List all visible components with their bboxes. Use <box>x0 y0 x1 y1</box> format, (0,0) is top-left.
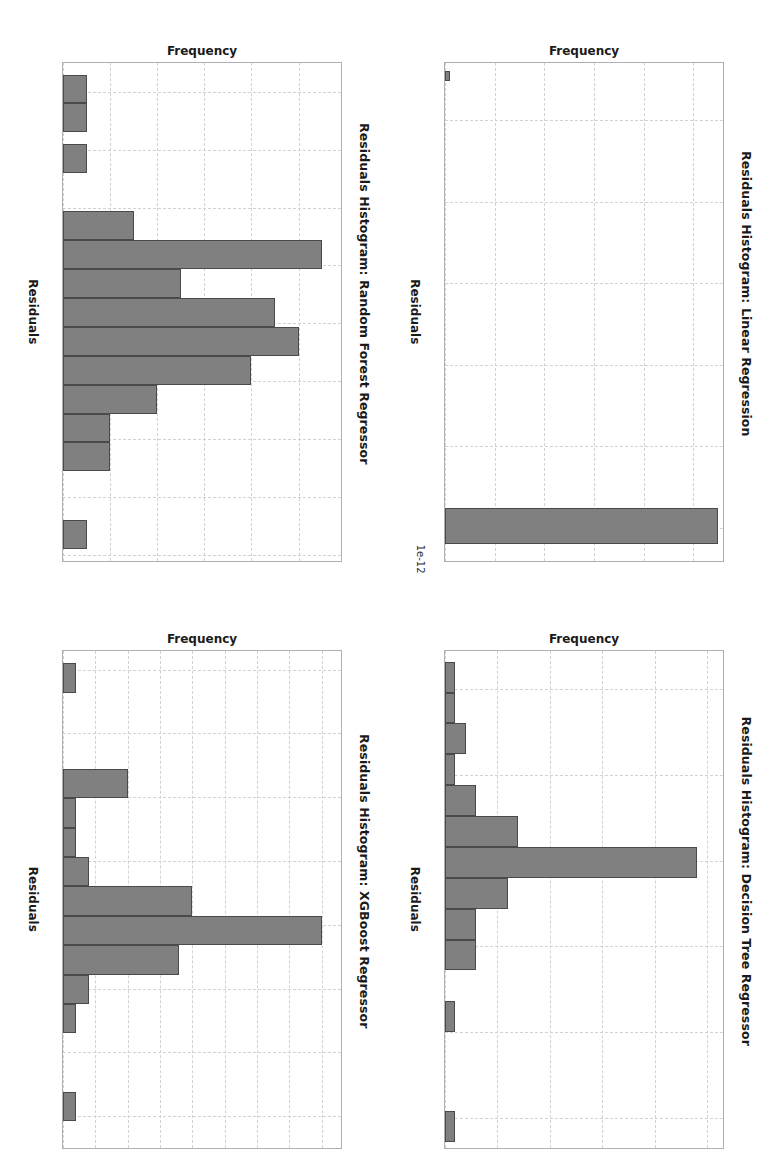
gridline-horizontal <box>322 651 323 1149</box>
histogram-bar <box>445 71 450 81</box>
y-tick-label: 6 <box>210 62 222 63</box>
y-tick-mark <box>289 650 290 651</box>
gridline-vertical <box>63 555 341 556</box>
y-tick-mark <box>110 62 111 63</box>
y-axis-label-xgboost-regressor: Frequency <box>167 632 237 646</box>
histogram-bar <box>63 442 110 471</box>
axes-random-forest-regressor: 0246810-0.20-0.15-0.10-0.050.000.050.100… <box>62 62 342 562</box>
panel-decision-tree-regressor: Residuals Histogram: Decision Tree Regre… <box>382 588 764 1175</box>
histogram-bar <box>63 385 157 414</box>
y-tick-label: 17.5 <box>295 650 307 651</box>
x-tick-label: -2.0 <box>444 191 445 212</box>
y-tick-label: 8 <box>257 62 269 63</box>
histogram-bar <box>445 1001 455 1032</box>
gridline-horizontal <box>707 651 708 1149</box>
gridline-horizontal <box>550 651 551 1149</box>
x-tick-label: -0.15 <box>62 720 63 747</box>
y-axis-label-decision-tree-regressor: Frequency <box>549 632 619 646</box>
gridline-horizontal <box>225 651 226 1149</box>
gridline-vertical <box>445 1032 723 1033</box>
histogram-bar <box>63 211 134 240</box>
histogram-bar <box>445 816 518 847</box>
panel-random-forest-regressor: Residuals Histogram: Random Forest Regre… <box>0 0 382 588</box>
y-tick-label: 20 <box>550 62 562 63</box>
axes-linear-regression: 01020304050-2.5-2.0-1.5-1.0-0.50.0 <box>444 62 724 562</box>
histogram-bar <box>63 75 87 104</box>
y-tick-label: 10 <box>305 62 317 63</box>
x-tick-label: -1.5 <box>444 273 445 294</box>
y-tick-label: 0.0 <box>69 650 81 651</box>
gridline-horizontal <box>192 651 193 1149</box>
histogram-bar <box>445 878 508 909</box>
gridline-horizontal <box>257 651 258 1149</box>
gridline-vertical <box>445 120 723 121</box>
x-axis-label-xgboost-regressor: Residuals <box>26 650 40 1150</box>
y-tick-label: 0 <box>69 62 81 63</box>
gridline-horizontal <box>602 651 603 1149</box>
histogram-bar <box>445 1111 455 1142</box>
gridline-horizontal <box>299 63 300 561</box>
y-tick-mark <box>594 62 595 63</box>
histogram-bar <box>445 847 697 878</box>
y-tick-mark <box>655 650 656 651</box>
histogram-bar <box>63 975 89 1004</box>
gridline-vertical <box>445 365 723 366</box>
histogram-bar <box>445 693 455 724</box>
histogram-bar <box>63 103 87 132</box>
histogram-bar <box>63 769 128 798</box>
x-axis-label-random-forest-regressor: Residuals <box>26 62 40 562</box>
histogram-bar <box>445 508 718 544</box>
y-tick-label: 5 <box>503 650 515 651</box>
y-tick-mark <box>204 62 205 63</box>
plot-area-random-forest-regressor: 0246810-0.20-0.15-0.10-0.050.000.050.100… <box>62 62 342 562</box>
y-tick-label: 15 <box>608 650 620 651</box>
y-tick-label: 10 <box>556 650 568 651</box>
y-tick-mark <box>445 62 446 63</box>
axes-xgboost-regressor: 0.02.55.07.510.012.515.017.520.0-0.20-0.… <box>62 650 342 1150</box>
y-tick-mark <box>251 62 252 63</box>
histogram-bar <box>63 663 76 692</box>
gridline-vertical <box>63 150 341 151</box>
x-axis-exponent-linear-regression: 1e-12 <box>415 545 426 574</box>
gridline-vertical <box>63 1116 341 1117</box>
x-axis-label-linear-regression: Residuals <box>408 62 422 562</box>
gridline-horizontal <box>544 63 545 561</box>
residuals-histogram-figure: Residuals Histogram: Linear Regression 0… <box>0 0 764 1175</box>
y-tick-mark <box>157 62 158 63</box>
histogram-bar <box>63 828 76 857</box>
x-tick-label: -1.0 <box>444 355 445 376</box>
axes-decision-tree-regressor: 0510152025-0.2-0.10.00.10.20.3 <box>444 650 724 1150</box>
x-tick-label: -2.5 <box>444 110 445 131</box>
histogram-bar <box>63 298 275 327</box>
y-tick-label: 0 <box>451 650 463 651</box>
gridline-vertical <box>63 497 341 498</box>
y-tick-mark <box>299 62 300 63</box>
gridline-vertical <box>445 446 723 447</box>
gridline-vertical <box>445 775 723 776</box>
histogram-bar <box>445 754 455 785</box>
y-tick-mark <box>693 62 694 63</box>
histogram-bar <box>63 857 89 886</box>
gridline-horizontal <box>693 63 694 561</box>
y-tick-mark <box>550 650 551 651</box>
histogram-bar <box>63 1092 76 1121</box>
histogram-bar <box>63 327 299 356</box>
y-tick-mark <box>445 650 446 651</box>
gridline-vertical <box>445 283 723 284</box>
histogram-bar <box>63 798 76 827</box>
y-tick-label: 20.0 <box>328 650 340 651</box>
gridline-horizontal <box>495 63 496 561</box>
y-tick-mark <box>602 650 603 651</box>
y-tick-label: 2.5 <box>101 650 113 651</box>
gridline-horizontal <box>655 651 656 1149</box>
histogram-bar <box>63 269 181 298</box>
y-tick-label: 30 <box>600 62 612 63</box>
panel-title-random-forest-regressor: Residuals Histogram: Random Forest Regre… <box>357 0 372 588</box>
y-tick-mark <box>322 650 323 651</box>
histogram-bar <box>445 723 466 754</box>
x-tick-label: 0.10 <box>62 1041 63 1064</box>
gridline-vertical <box>63 670 341 671</box>
gridline-vertical <box>445 202 723 203</box>
panel-title-xgboost-regressor: Residuals Histogram: XGBoost Regressor <box>357 588 372 1175</box>
y-tick-mark <box>192 650 193 651</box>
